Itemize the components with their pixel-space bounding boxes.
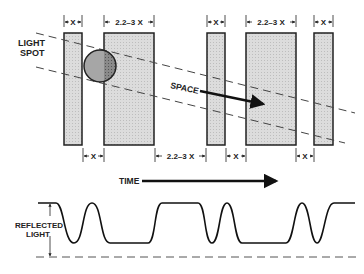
top-dimensions bbox=[64, 15, 333, 27]
bottom-dim-1: X bbox=[91, 152, 97, 161]
barcode-scan-diagram: LIGHT SPOT SPACE X 2.2–3 X X 2.2–3 X X X… bbox=[0, 0, 364, 274]
narrow-bar-1 bbox=[64, 33, 82, 145]
top-dim-2: 2.2–3 X bbox=[115, 18, 143, 27]
top-dim-3: X bbox=[213, 18, 219, 27]
light-spot-label-line2: SPOT bbox=[20, 48, 45, 58]
bottom-dimensions bbox=[83, 148, 314, 162]
wide-bar-1 bbox=[104, 33, 154, 145]
reflected-light-label-line2: LIGHT bbox=[26, 230, 50, 239]
space-label: SPACE bbox=[170, 80, 200, 96]
bottom-dim-4: X bbox=[302, 152, 308, 161]
top-dim-1: X bbox=[70, 18, 76, 27]
time-label: TIME bbox=[119, 176, 140, 186]
bottom-dim-3: X bbox=[233, 152, 239, 161]
narrow-bar-3 bbox=[314, 33, 333, 145]
wide-bar-2 bbox=[246, 33, 296, 145]
reflected-light-waveform bbox=[38, 203, 355, 243]
bottom-dim-2: 2.2–3 X bbox=[167, 152, 195, 161]
scan-path-upper-line bbox=[36, 33, 355, 113]
light-spot-label-line1: LIGHT bbox=[18, 38, 45, 48]
narrow-bar-2 bbox=[207, 33, 225, 145]
reflected-light-label-line1: REFLECTED bbox=[15, 221, 63, 230]
top-dim-5: X bbox=[321, 18, 327, 27]
top-dim-4: 2.2–3 X bbox=[257, 18, 285, 27]
